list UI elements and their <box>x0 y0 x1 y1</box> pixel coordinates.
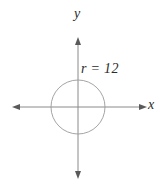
y-axis-label: y <box>74 7 80 21</box>
coordinate-plane-svg <box>0 0 163 187</box>
x-axis-left-arrow-icon <box>12 104 20 110</box>
circle-diagram-figure: y x r = 12 <box>0 0 163 187</box>
x-axis-label: x <box>148 98 154 112</box>
x-axis-right-arrow-icon <box>139 104 147 110</box>
radius-annotation-label: r = 12 <box>81 62 119 76</box>
y-axis-down-arrow-icon <box>75 171 81 179</box>
y-axis-up-arrow-icon <box>75 37 81 45</box>
